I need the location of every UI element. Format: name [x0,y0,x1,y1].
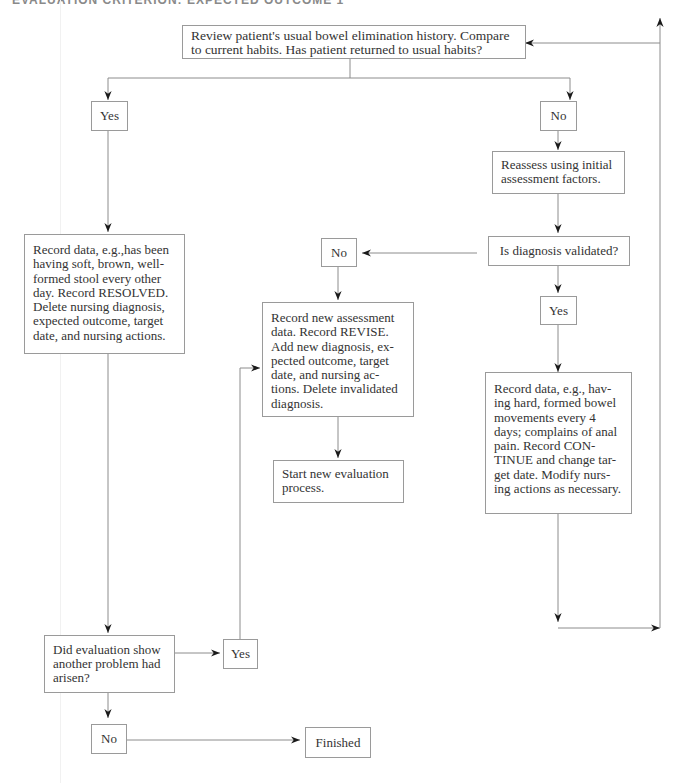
start-new-evaluation-node: Start new evaluation process. [273,460,404,503]
revise-text: Record new assessment data. Record REVIS… [271,310,398,411]
yes-top-node: Yes [91,101,128,131]
start-new-evaluation-text: Start new evaluation process. [282,466,389,495]
finished-label: Finished [316,736,361,750]
diagnosis-validated-text: Is diagnosis validated? [500,244,618,258]
review-history-text: Review patient's usual bowel elimination… [191,28,509,57]
no-bottom-label: No [101,732,117,746]
continue-node: Record data, e.g., hav-ing hard, formed … [485,372,632,514]
resolved-node: Record data, e.g.,has been having soft, … [24,234,185,354]
reassess-node: Reassess using initial assessment factor… [492,151,625,194]
reassess-text: Reassess using initial assessment factor… [501,157,612,186]
resolved-text: Record data, e.g.,has been having soft, … [33,242,169,343]
yes-mid-label: Yes [549,304,568,318]
another-problem-text: Did evaluation show another problem had … [53,642,161,685]
yes-top-label: Yes [100,109,119,123]
no-mid-node: No [321,238,357,267]
another-problem-node: Did evaluation show another problem had … [44,635,175,693]
no-top-node: No [540,101,577,131]
yes-bottom-label: Yes [231,647,250,661]
yes-bottom-node: Yes [223,639,258,669]
yes-mid-node: Yes [540,296,577,325]
no-top-label: No [551,109,567,123]
no-bottom-node: No [91,724,127,754]
revise-node: Record new assessment data. Record REVIS… [262,302,414,417]
no-mid-label: No [331,246,347,260]
review-history-node: Review patient's usual bowel elimination… [182,25,526,59]
continue-text: Record data, e.g., hav-ing hard, formed … [494,381,621,496]
finished-node: Finished [305,727,371,758]
diagnosis-validated-node: Is diagnosis validated? [488,236,630,266]
